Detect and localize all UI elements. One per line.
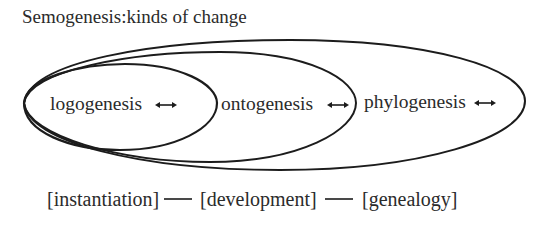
semogenesis-diagram: Semogenesis:kinds of change logogenesis … — [0, 0, 536, 236]
double-arrow-icon — [327, 102, 349, 108]
diagram-title: Semogenesis:kinds of change — [22, 6, 247, 27]
scale-development: [development] — [200, 188, 317, 211]
scale-instantiation: [instantiation] — [47, 188, 159, 210]
ontogenesis-label: ontogenesis — [221, 93, 313, 114]
double-arrow-icon — [474, 100, 496, 106]
logogenesis-label: logogenesis — [50, 93, 142, 114]
scale-genealogy: [genealogy] — [362, 188, 458, 211]
double-arrow-icon — [155, 102, 177, 108]
phylogenesis-label: phylogenesis — [364, 91, 466, 112]
